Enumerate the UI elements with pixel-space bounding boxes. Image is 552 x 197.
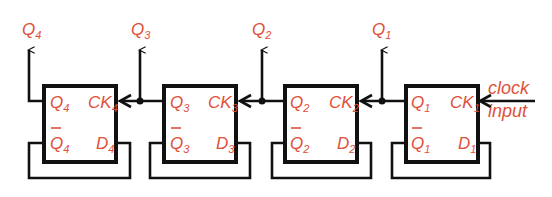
q2-to-ck3-wire — [240, 50, 283, 107]
output-label-q1: Q1 — [372, 20, 391, 41]
junction-dot — [259, 98, 266, 105]
ripple-counter-diagram: Q4 Q3 Q2 Q1 Q4 CK4 Q4 D4 Q3 CK3 Q3 D3 Q2… — [0, 0, 552, 197]
junction-dot — [379, 98, 386, 105]
clock-label-line1: clock — [488, 78, 530, 98]
q1-to-ck2-wire — [361, 50, 404, 107]
output-label-q2: Q2 — [252, 20, 271, 41]
q4-output-wire — [29, 50, 42, 101]
q3-to-ck4-wire — [120, 50, 162, 107]
output-label-q4: Q4 — [22, 20, 41, 41]
output-label-q3: Q3 — [131, 20, 151, 41]
junction-dot — [137, 98, 144, 105]
clock-label-line2: input — [488, 101, 528, 121]
